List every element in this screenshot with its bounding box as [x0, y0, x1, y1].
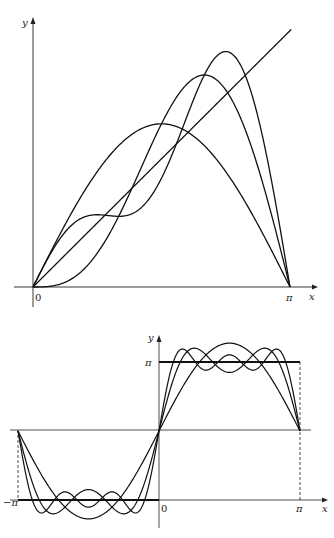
bottom-x-label: x [322, 503, 328, 514]
curve-s2 [33, 75, 290, 287]
top-origin-label: 0 [35, 292, 41, 303]
bottom-origin-label: 0 [161, 503, 167, 514]
top-x-arrow-icon [312, 285, 318, 290]
bottom-y-pi-label: π [144, 357, 152, 368]
bottom-neg-pi-label: −π [3, 497, 18, 508]
top-y-arrow-icon [31, 17, 36, 24]
top-chart: y 0 π x [14, 17, 318, 307]
top-curves [33, 29, 291, 287]
bottom-x-arrow-icon [322, 498, 328, 503]
bottom-y-label: y [147, 332, 154, 343]
bottom-pi-label: π [295, 503, 303, 514]
bottom-y-arrow-icon [157, 335, 162, 342]
curve-s3 [33, 52, 290, 287]
top-pi-label: π [285, 292, 293, 303]
line-y-equals-x [33, 29, 291, 287]
figure: y 0 π x y π 0 −π π x [0, 0, 334, 538]
top-x-label: x [309, 291, 315, 302]
top-y-label: y [21, 17, 28, 28]
bottom-chart: y π 0 −π π x [3, 332, 328, 528]
